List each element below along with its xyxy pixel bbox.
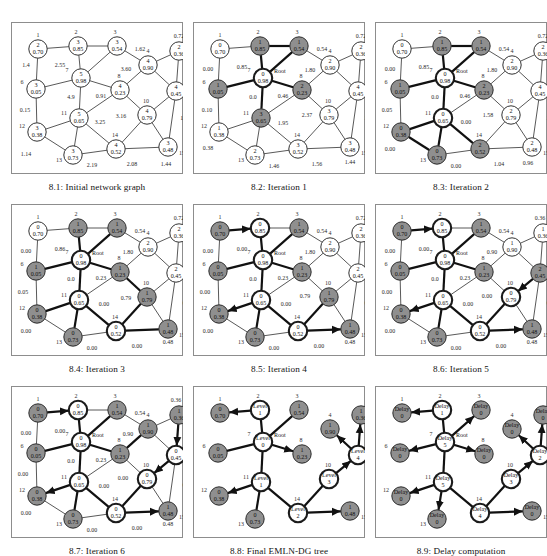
- graph-edge: [169, 100, 174, 138]
- node-value-top: 1: [115, 221, 118, 227]
- node-value-bottom: 0.23: [297, 454, 308, 460]
- graph-edge: [177, 60, 179, 82]
- graph-edge: [36, 58, 37, 80]
- edge-weight-label: 1.80: [123, 249, 133, 255]
- edge-weight-label: 3.25: [95, 119, 105, 125]
- node-index-label: 2: [75, 393, 78, 399]
- edge-weight-label: 0.54: [317, 228, 327, 234]
- node-index-label: 2: [439, 29, 442, 35]
- node-index-label: 14: [476, 496, 482, 502]
- node-value-top: Delay: [438, 435, 454, 441]
- node-value-bottom: 0.90: [143, 65, 154, 71]
- node-value-bottom: 0.05: [31, 89, 42, 95]
- node-value-bottom: 0.48: [345, 147, 356, 153]
- graph-edge: [443, 55, 444, 69]
- root-label: Root: [456, 68, 468, 74]
- node-value-bottom: 0.98: [258, 78, 269, 84]
- node-value-bottom: 2: [296, 513, 299, 519]
- node-value-top: 0: [77, 293, 80, 299]
- graph-edge: [307, 147, 341, 148]
- node-value-top: 2: [328, 58, 331, 64]
- node-index-label: 4: [329, 48, 332, 54]
- node-value-bottom: 0: [261, 442, 264, 448]
- edge-weight-label: 0.85: [419, 64, 429, 70]
- node-value-top: 1: [34, 264, 37, 270]
- graph-edge: [309, 278, 322, 290]
- node-index-label: 3: [296, 29, 299, 35]
- edge-weight-label: 0.00: [496, 343, 506, 349]
- edge-weight-label: 0.00: [237, 246, 247, 252]
- node-value-bottom: 0.38: [214, 314, 225, 320]
- graph-edge: [45, 80, 72, 87]
- edge-weight-label: 0.00: [419, 246, 429, 252]
- node-index-label: 7: [66, 431, 69, 437]
- node-index-label: 2: [257, 211, 260, 217]
- node-value-bottom: 0.05: [213, 453, 224, 459]
- node-value-bottom: 0: [399, 496, 402, 502]
- edge-weight-label: 0.00: [385, 66, 395, 72]
- node-index-label: 2: [439, 211, 442, 217]
- panel-caption: 8.7: Iteration 6: [1, 546, 193, 556]
- node-value-top: 1: [166, 504, 169, 510]
- node-value-bottom: 0.52: [111, 513, 122, 519]
- node-value-top: 3: [166, 140, 169, 146]
- node-value-bottom: 0.38: [396, 314, 407, 320]
- node-value-top: 2: [356, 266, 359, 272]
- node-value-top: 0: [71, 512, 74, 518]
- node-index-label: 4: [329, 230, 332, 236]
- edge-weight-label: 0.00: [21, 328, 31, 334]
- edge-weight-label: 0.05: [18, 289, 28, 295]
- graph-edge: [45, 262, 72, 269]
- node-value-bottom: 0.90: [507, 65, 518, 71]
- graph-canvas: 00.70110.85210.54320.90420.36510.05600.9…: [193, 22, 365, 174]
- node-index-label: 7: [430, 431, 433, 437]
- node-value-bottom: 0.73: [432, 337, 443, 343]
- panel-caption: 8.6: Iteration 5: [365, 364, 547, 374]
- graph-edge: [227, 262, 254, 269]
- node-index-label: 10: [143, 462, 149, 468]
- graph-canvas: 00.70110.85210.54320.90420.36510.05600.9…: [375, 22, 547, 174]
- node-value-bottom: 0.90: [143, 247, 154, 253]
- node-value-top: 1: [216, 82, 219, 88]
- node-index-label: 11: [425, 292, 431, 298]
- graph-edge: [489, 329, 523, 330]
- node-value-bottom: 0.79: [142, 479, 153, 485]
- node-value-top: 0: [217, 489, 220, 495]
- edge-weight-label: 0.0: [67, 276, 74, 282]
- node-index-label: 15: [361, 332, 365, 338]
- graph-edge: [486, 304, 505, 324]
- graph-edge: [152, 123, 163, 140]
- node-value-bottom: 0.38: [214, 132, 225, 138]
- graph-edge: [516, 123, 527, 140]
- node-value-top: 1: [541, 226, 544, 232]
- node-value-bottom: 0.38: [214, 496, 225, 502]
- node-value-top: 0: [399, 125, 402, 131]
- node-index-label: 4: [329, 412, 332, 418]
- edge-weight-label: 0.72: [174, 215, 183, 221]
- node-index-label: 1: [401, 396, 404, 402]
- node-value-top: 1: [177, 408, 180, 414]
- graph-edge: [400, 98, 401, 123]
- graph-edge: [82, 150, 107, 153]
- edge-weight-label: 2.37: [302, 112, 312, 118]
- node-value-top: 0: [398, 264, 401, 270]
- node-value-top: 2: [174, 266, 177, 272]
- node-value-bottom: 0.45: [535, 91, 546, 97]
- node-index-label: 13: [56, 521, 62, 527]
- node-value-top: 2: [541, 44, 544, 50]
- graph-edge: [410, 485, 435, 493]
- node-value-top: 0: [71, 330, 74, 336]
- node-index-label: 15: [543, 150, 547, 156]
- node-value-bottom: 0.38: [32, 496, 43, 502]
- node-index-label: 11: [425, 474, 431, 480]
- graph-canvas: 00.70100.85210.54310.90410.36500.05600.9…: [11, 386, 183, 538]
- node-index-label: 14: [294, 496, 300, 502]
- graph-edge: [218, 240, 219, 262]
- node-index-label: 7: [430, 249, 433, 255]
- node-index-label: 7: [248, 67, 251, 73]
- node-index-label: 8: [118, 437, 121, 443]
- graph-edge: [410, 303, 435, 311]
- node-value-top: 3: [115, 39, 118, 45]
- node-value-top: 1: [359, 408, 362, 414]
- node-value-bottom: 0.23: [297, 90, 308, 96]
